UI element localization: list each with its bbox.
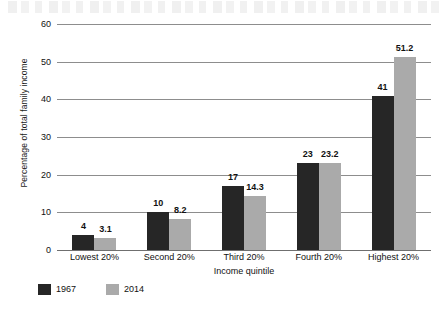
x-category-label: Second 20% bbox=[134, 252, 204, 266]
bar-2014-second-20-: 8.2 bbox=[169, 219, 191, 250]
bar-value-label: 8.2 bbox=[174, 206, 187, 215]
bar-1967-fourth-20-: 23 bbox=[297, 163, 319, 250]
legend-item-2014: 2014 bbox=[106, 284, 144, 295]
bar-value-label: 41 bbox=[378, 83, 388, 92]
bar-2014-fourth-20-: 23.2 bbox=[319, 163, 341, 250]
x-category-label: Lowest 20% bbox=[59, 252, 129, 266]
legend-swatch-icon bbox=[106, 284, 119, 295]
bar-group: 1714.3 bbox=[209, 24, 279, 250]
x-axis-title: Income quintile bbox=[57, 266, 431, 276]
bar-2014-highest-20-: 51.2 bbox=[394, 57, 416, 250]
bar-group: 4151.2 bbox=[359, 24, 429, 250]
legend-item-1967: 1967 bbox=[38, 284, 76, 295]
bar-groups: 43.1108.21714.32323.24151.2 bbox=[57, 24, 431, 250]
legend-item-label: 1967 bbox=[56, 285, 76, 294]
bar-2014-third-20-: 14.3 bbox=[244, 196, 266, 250]
x-category-label: Highest 20% bbox=[359, 252, 429, 266]
bar-1967-lowest-20-: 4 bbox=[72, 235, 94, 250]
bar-1967-highest-20-: 41 bbox=[372, 96, 394, 250]
legend-item-label: 2014 bbox=[124, 285, 144, 294]
y-tick-label: 50 bbox=[25, 57, 51, 66]
bar-value-label: 51.2 bbox=[396, 44, 414, 53]
bar-value-label: 23.2 bbox=[321, 150, 339, 159]
chart-legend: 1967 2014 bbox=[38, 284, 144, 295]
axis-baseline bbox=[57, 250, 431, 251]
y-tick-label: 20 bbox=[25, 170, 51, 179]
bar-value-label: 10 bbox=[153, 199, 163, 208]
bar-value-label: 4 bbox=[81, 222, 86, 231]
bar-group: 108.2 bbox=[134, 24, 204, 250]
bar-value-label: 14.3 bbox=[246, 183, 264, 192]
bar-1967-third-20-: 17 bbox=[222, 186, 244, 250]
y-tick-label: 10 bbox=[25, 208, 51, 217]
bar-1967-second-20-: 10 bbox=[147, 212, 169, 250]
y-tick-label: 40 bbox=[25, 95, 51, 104]
y-tick-label: 30 bbox=[25, 133, 51, 142]
bar-chart: Percentage of total family income 60 50 … bbox=[0, 0, 448, 313]
bar-value-label: 17 bbox=[228, 173, 238, 182]
y-axis-tick-labels: 60 50 40 30 20 10 0 bbox=[25, 0, 51, 313]
plot-area: 43.1108.21714.32323.24151.2 bbox=[57, 24, 431, 250]
y-tick-label: 0 bbox=[25, 246, 51, 255]
bar-value-label: 23 bbox=[303, 150, 313, 159]
bar-2014-lowest-20-: 3.1 bbox=[94, 238, 116, 250]
legend-swatch-icon bbox=[38, 284, 51, 295]
x-category-label: Fourth 20% bbox=[284, 252, 354, 266]
x-category-label: Third 20% bbox=[209, 252, 279, 266]
bar-group: 43.1 bbox=[59, 24, 129, 250]
scan-bleed-artifact bbox=[8, 1, 440, 13]
y-tick-label: 60 bbox=[25, 20, 51, 29]
bar-group: 2323.2 bbox=[284, 24, 354, 250]
x-axis-category-labels: Lowest 20%Second 20%Third 20%Fourth 20%H… bbox=[57, 252, 431, 266]
bar-value-label: 3.1 bbox=[99, 225, 112, 234]
